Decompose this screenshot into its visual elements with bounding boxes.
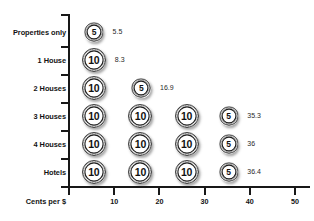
y-axis-tick-3	[61, 102, 69, 104]
coin-10-cent: 10	[82, 132, 106, 156]
value-label-4: 35.3	[247, 112, 261, 119]
x-axis-tick-50	[294, 188, 296, 195]
coin-10-cent: 10	[128, 132, 152, 156]
pictograph-chart: Properties only1 House2 Houses3 Houses4 …	[0, 0, 314, 221]
coin-10-cent: 10	[128, 160, 152, 184]
coin-10-cent: 10	[175, 160, 199, 184]
coin-10-cent: 10	[82, 104, 106, 128]
coin-10-cent: 10	[128, 104, 152, 128]
coin-denomination: 5	[92, 28, 96, 37]
category-label-1: Properties only	[0, 28, 66, 37]
x-axis-tick-0	[68, 181, 70, 195]
coin-denomination: 10	[88, 83, 99, 94]
coin-denomination: 5	[226, 112, 230, 121]
value-label-2: 8.3	[115, 56, 125, 63]
x-axis-label-40: 40	[246, 197, 254, 206]
y-axis-tick-1	[61, 46, 69, 48]
coin-denomination: 10	[181, 167, 192, 178]
coin-denomination: 5	[226, 140, 230, 149]
category-label-3: 2 Houses	[0, 84, 66, 93]
coin-denomination: 5	[139, 84, 143, 93]
coin-denomination: 10	[88, 111, 99, 122]
y-axis-tick-5	[61, 158, 69, 160]
value-label-1: 5.5	[113, 28, 123, 35]
coin-denomination: 5	[226, 168, 230, 177]
coin-5-cent: 5	[219, 134, 239, 154]
x-axis-tick-40	[249, 188, 251, 195]
value-label-6: 36.4	[247, 168, 261, 175]
coin-5-cent: 5	[132, 78, 152, 98]
x-axis-title: Cents per $	[0, 197, 66, 206]
x-axis-label-30: 30	[201, 197, 209, 206]
coin-denomination: 10	[88, 139, 99, 150]
coin-10-cent: 10	[82, 76, 106, 100]
value-label-3: 16.9	[160, 84, 174, 91]
y-axis-tick-4	[61, 130, 69, 132]
coin-denomination: 10	[181, 139, 192, 150]
coin-denomination: 10	[181, 111, 192, 122]
coin-denomination: 10	[88, 167, 99, 178]
x-axis-line	[68, 186, 310, 188]
value-label-5: 36	[247, 140, 255, 147]
category-label-5: 4 Houses	[0, 140, 66, 149]
y-axis-line	[68, 14, 70, 187]
x-axis-tick-20	[158, 188, 160, 195]
coin-denomination: 10	[135, 167, 146, 178]
category-label-4: 3 Houses	[0, 112, 66, 121]
x-axis-label-10: 10	[110, 197, 118, 206]
category-label-2: 1 House	[0, 56, 66, 65]
coin-10-cent: 10	[82, 48, 106, 72]
x-axis-tick-10	[113, 188, 115, 195]
coin-denomination: 10	[88, 55, 99, 66]
coin-5-cent: 5	[219, 106, 239, 126]
coin-10-cent: 10	[175, 132, 199, 156]
x-axis-label-20: 20	[155, 197, 163, 206]
coin-10-cent: 10	[175, 104, 199, 128]
coin-denomination: 10	[135, 111, 146, 122]
category-label-6: Hotels	[0, 168, 66, 177]
x-axis-label-50: 50	[291, 197, 299, 206]
y-axis-tick-0	[61, 14, 69, 16]
coin-10-cent: 10	[82, 160, 106, 184]
coin-5-cent: 5	[84, 22, 104, 42]
coin-denomination: 10	[135, 139, 146, 150]
y-axis-tick-2	[61, 74, 69, 76]
coin-5-cent: 5	[219, 162, 239, 182]
x-axis-tick-30	[204, 188, 206, 195]
